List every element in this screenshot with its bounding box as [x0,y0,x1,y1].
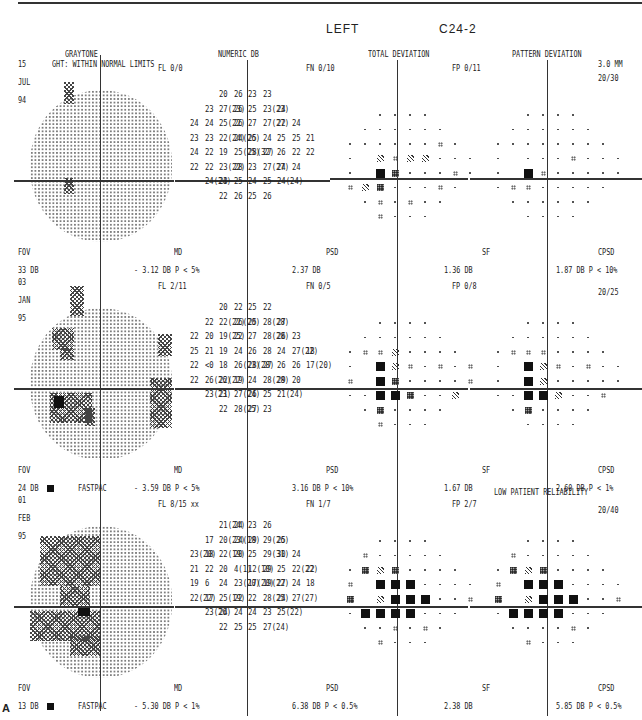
graytone-defect [70,286,84,316]
deviation-symbol [598,391,608,401]
column-total-deviation: TOTAL DEVIATION [368,50,429,59]
deviation-symbol [375,594,385,604]
normal-dot-icon [349,395,351,397]
deviation-symbol [553,536,563,546]
threshold-value: 22 [190,361,199,369]
test-panel: 01FEB95FL 8/15 xxFN 1/721(24)2423261720(… [0,496,642,706]
p-lt-5-icon [586,364,591,369]
normal-dot-icon [379,337,381,339]
p-lt-2-icon [377,567,384,574]
deviation-symbol [345,391,355,401]
threshold-value: 6 [205,579,209,587]
p-lt-5-icon [496,582,501,587]
test-date: FEB [18,514,30,523]
normal-dot-icon [557,540,559,542]
p-lt-2-icon [392,349,399,356]
false-negatives: FN 0/5 [306,282,331,291]
normal-dot-icon [439,172,441,174]
threshold-value: 24 [190,119,199,127]
p-lt-5-icon [363,350,368,355]
p-lt-2-icon [422,155,429,162]
deviation-symbol [523,347,533,357]
deviation-symbol [435,197,445,207]
graytone-map [30,90,172,242]
threshold-value: 29 [248,536,257,544]
deviation-symbol [345,594,355,604]
normal-dot-icon [439,351,441,353]
deviation-symbol [583,347,593,357]
normal-dot-icon [379,129,381,131]
deviation-symbol [375,168,385,178]
normal-dot-icon [617,380,619,382]
deviation-symbol [538,333,548,343]
normal-dot-icon [424,201,426,203]
threshold-value: 23 [190,134,199,142]
normal-dot-icon [497,613,499,615]
normal-dot-icon [542,158,544,160]
normal-dot-icon [454,187,456,189]
normal-dot-icon [349,366,351,368]
deviation-symbol [508,183,518,193]
deviation-symbol [405,405,415,415]
deviation-symbol [508,197,518,207]
normal-dot-icon [572,351,574,353]
normal-dot-icon [572,114,574,116]
deviation-symbol [568,623,578,633]
deviation-symbol [390,139,400,149]
fixation-losses: FL 0/0 [158,64,183,73]
deviation-symbol [450,609,460,619]
deviation-symbol [583,168,593,178]
fov-value: 13 DB [18,702,38,711]
normal-dot-icon [512,409,514,411]
normal-dot-icon [424,555,426,557]
deviation-symbol [375,551,385,561]
test-date: 03 [18,278,26,287]
deviation-symbol [390,333,400,343]
p-lt-0.5-icon [376,580,385,589]
p-lt-0.5-icon [554,609,563,618]
deviation-symbol [405,565,415,575]
deviation-symbol [523,376,533,386]
normal-dot-icon [454,569,456,571]
psd-value: 2.37 DB [292,266,321,275]
deviation-symbol [375,580,385,590]
threshold-value: 20 [219,565,228,573]
deviation-symbol [420,183,430,193]
threshold-value: 25 [190,347,199,355]
deviation-symbol [375,197,385,207]
normal-dot-icon [512,395,514,397]
deviation-symbol [390,347,400,357]
deviation-symbol [435,347,445,357]
deviation-symbol [613,168,623,178]
deviation-symbol [523,565,533,575]
normal-dot-icon [542,114,544,116]
deviation-symbol [450,347,460,357]
deviation-symbol [390,536,400,546]
deviation-symbol [583,565,593,575]
deviation-symbol [420,333,430,343]
normal-dot-icon [394,555,396,557]
normal-dot-icon [394,409,396,411]
normal-dot-icon [512,143,514,145]
threshold-value: 27 [248,332,257,340]
deviation-symbol [420,551,430,561]
threshold-value: 25 [277,536,286,544]
deviation-symbol [420,347,430,357]
deviation-symbol [345,183,355,193]
normal-dot-icon [527,555,529,557]
deviation-symbol [553,197,563,207]
normal-dot-icon [409,642,411,644]
normal-dot-icon [409,351,411,353]
graytone-vertical-axis [100,491,101,711]
threshold-value: 26 [248,347,257,355]
normal-dot-icon [394,540,396,542]
deviation-symbol [405,125,415,135]
false-positives: FP 0/8 [452,282,477,291]
normal-dot-icon [424,114,426,116]
threshold-value: 23 [219,177,228,185]
p-lt-2-icon [525,596,532,603]
normal-dot-icon [364,337,366,339]
deviation-symbol [523,168,533,178]
deviation-symbol [523,551,533,561]
threshold-value: 22 [277,119,286,127]
